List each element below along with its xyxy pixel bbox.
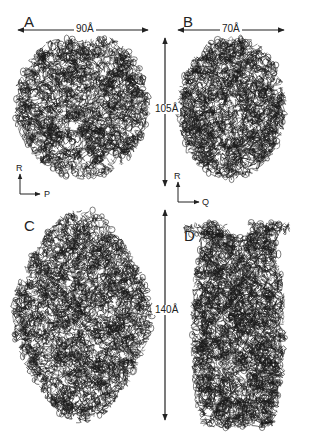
axis-indicator-a bbox=[20, 174, 40, 194]
dimension-width-b: 70Å bbox=[220, 24, 242, 34]
axis-indicator-b bbox=[178, 182, 199, 202]
panel-label-a: A bbox=[24, 14, 34, 29]
panel-label-b: B bbox=[183, 14, 193, 29]
axis-label-p: P bbox=[44, 190, 50, 199]
axis-label-q: Q bbox=[202, 198, 209, 207]
dimension-width-a: 90Å bbox=[74, 24, 96, 34]
figure-canvas bbox=[0, 0, 309, 440]
protein-structure-panel-c bbox=[11, 207, 156, 423]
protein-structure-panel-a bbox=[13, 35, 151, 179]
panel-label-d: D bbox=[184, 228, 195, 243]
dimension-height-bottom: 140Å bbox=[153, 305, 180, 315]
protein-structure-panel-b bbox=[176, 35, 287, 183]
dimension-height-top: 105Å bbox=[153, 104, 180, 114]
panel-label-c: C bbox=[24, 218, 35, 233]
protein-structure-panel-d bbox=[183, 220, 289, 431]
axis-label-r-a: R bbox=[16, 164, 23, 173]
axis-label-r-b: R bbox=[174, 172, 181, 181]
